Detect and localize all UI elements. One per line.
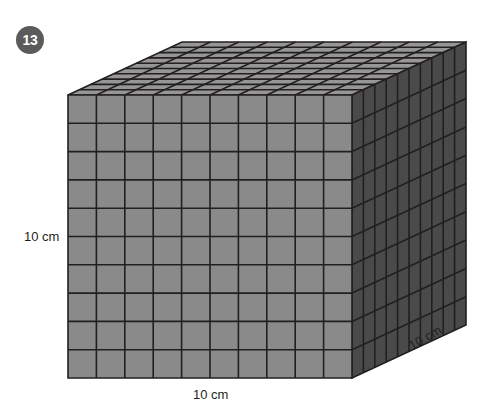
cube-figure <box>0 0 491 415</box>
dimension-label-width: 10 cm <box>193 387 228 402</box>
cube-right-face <box>352 42 466 378</box>
dimension-label-height: 10 cm <box>24 229 59 244</box>
cube-front-face <box>68 95 352 378</box>
worksheet-page: 13 10 cm 10 cm 10 cm <box>0 0 491 415</box>
